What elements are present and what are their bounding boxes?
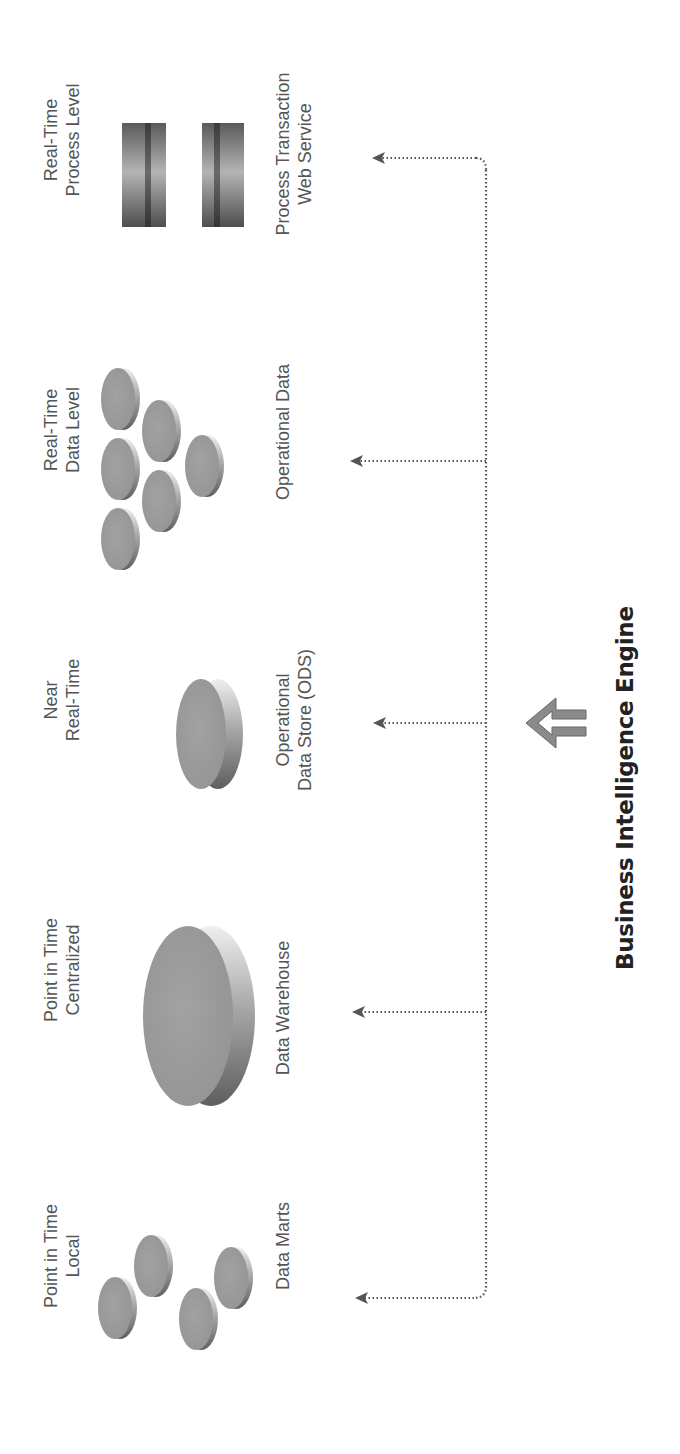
column-bottom-label-operational-data: Operational Data (272, 302, 294, 562)
label-line: Data Level (62, 300, 84, 560)
label-line: Point in Time (40, 1136, 62, 1376)
label-line: Point in Time (40, 840, 62, 1100)
six-small-disks-icon (101, 368, 224, 570)
column-bottom-label-process-transaction: Process Transaction Web Service (272, 24, 316, 284)
arrowhead-icon (352, 1006, 365, 1018)
column-top-label-data-marts: Point in Time Local (40, 1136, 84, 1376)
column-bottom-label-ods: Operational Data Store (ODS) (272, 590, 316, 850)
label-line: Operational Data (272, 302, 294, 562)
large-disk-icon (143, 926, 255, 1106)
medium-disk-icon (176, 679, 243, 789)
column-top-label-process-transaction: Real-Time Process Level (40, 50, 84, 230)
label-line: Data Warehouse (272, 878, 294, 1138)
column-bottom-label-data-warehouse: Data Warehouse (272, 878, 294, 1138)
label-line: Process Level (62, 50, 84, 230)
label-line: Operational (272, 590, 294, 850)
diagram-title: Business Intelligence Engine (612, 606, 638, 970)
label-line: Process Transaction (272, 24, 294, 284)
arrowhead-icon (373, 717, 386, 729)
bi-architecture-diagram: Real-Time Process Level Real-Time Data L… (0, 0, 680, 1454)
column-top-label-data-warehouse: Point in Time Centralized (40, 840, 84, 1100)
four-small-disks-icon (98, 1235, 253, 1350)
two-gradient-bars-icon (122, 123, 244, 227)
column-bottom-label-data-marts: Data Marts (272, 1126, 294, 1366)
label-line: Real-Time (62, 570, 84, 830)
label-line: Real-Time (40, 300, 62, 560)
label-line: Near (40, 570, 62, 830)
dotted-connector (360, 158, 486, 1298)
column-top-label-ods: Near Real-Time (40, 570, 84, 830)
hollow-up-arrow-icon (526, 698, 586, 748)
arrowhead-icon (355, 1292, 368, 1304)
diagram-graphics (0, 0, 680, 1454)
label-line: Data Store (ODS) (294, 590, 316, 850)
column-top-label-operational-data: Real-Time Data Level (40, 300, 84, 560)
label-line: Local (62, 1136, 84, 1376)
label-line: Web Service (294, 24, 316, 284)
label-line: Real-Time (40, 50, 62, 230)
label-line: Data Marts (272, 1126, 294, 1366)
connector-arrowheads (350, 152, 386, 1304)
label-line: Centralized (62, 840, 84, 1100)
